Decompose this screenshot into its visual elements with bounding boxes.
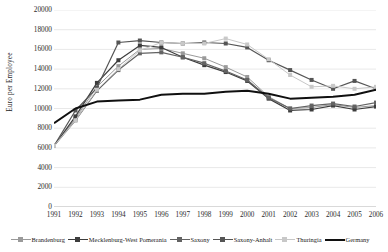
- data-point-marker: [374, 85, 376, 89]
- data-point-marker: [95, 88, 99, 92]
- legend-swatch-icon: [325, 236, 345, 243]
- y-tick-label: 4000: [37, 164, 52, 172]
- data-point-marker: [138, 43, 142, 47]
- data-point-marker: [138, 39, 142, 43]
- series-line: [54, 52, 376, 146]
- data-point-marker: [353, 105, 357, 109]
- data-point-marker: [288, 68, 292, 72]
- data-point-marker: [202, 41, 206, 45]
- legend-item[interactable]: Brandenburg: [11, 236, 68, 243]
- cropped-title: [0, 0, 383, 6]
- data-point-marker: [116, 41, 120, 45]
- y-tick-label: 20000: [34, 6, 52, 14]
- data-point-marker: [374, 101, 376, 105]
- legend-item-label: Thuringia: [296, 236, 324, 243]
- data-point-marker: [54, 144, 56, 148]
- data-point-marker: [159, 45, 163, 49]
- x-tick-label: 2006: [363, 210, 388, 220]
- data-point-marker: [310, 85, 314, 89]
- data-point-marker: [116, 58, 120, 62]
- data-point-marker: [310, 78, 314, 82]
- data-point-marker: [159, 50, 163, 54]
- y-tick-label: 18000: [34, 26, 52, 34]
- x-axis-ticks: 1991199219931994199519961997199819992000…: [54, 210, 376, 224]
- data-point-marker: [181, 51, 185, 55]
- legend-item[interactable]: Saxony-Anhalt: [213, 236, 276, 243]
- data-point-marker: [202, 56, 206, 60]
- y-axis-label: Euro per Employee: [6, 27, 14, 137]
- data-point-marker: [181, 55, 185, 59]
- data-point-marker: [374, 105, 376, 109]
- legend-item[interactable]: Mecklenburg-West Pomerania: [68, 236, 170, 243]
- data-point-marker: [224, 41, 228, 45]
- data-point-marker: [288, 73, 292, 77]
- chart-legend: BrandenburgMecklenburg-West PomeraniaSax…: [0, 232, 383, 246]
- data-point-marker: [224, 69, 228, 73]
- data-point-marker: [331, 102, 335, 106]
- legend-swatch-icon: [213, 236, 233, 243]
- legend-item[interactable]: Saxony: [170, 236, 213, 243]
- data-point-marker: [267, 96, 271, 100]
- data-point-marker: [138, 48, 142, 52]
- legend-swatch-icon: [68, 236, 88, 243]
- y-tick-label: 16000: [34, 45, 52, 53]
- y-tick-label: 6000: [37, 144, 52, 152]
- data-point-marker: [267, 57, 271, 61]
- data-point-marker: [245, 42, 249, 46]
- series-line: [54, 45, 376, 145]
- data-point-marker: [224, 37, 228, 41]
- data-point-marker: [310, 104, 314, 108]
- legend-item-label: Germany: [346, 236, 373, 243]
- data-point-marker: [73, 118, 77, 122]
- data-point-marker: [288, 107, 292, 111]
- data-point-marker: [116, 67, 120, 71]
- y-tick-label: 10000: [34, 105, 52, 113]
- series-mecklenburg-west-pomerania: [54, 43, 376, 147]
- data-point-marker: [245, 78, 249, 82]
- y-tick-label: 8000: [37, 124, 52, 132]
- legend-item-label: Saxony: [191, 236, 213, 243]
- legend-swatch-icon: [275, 236, 295, 243]
- data-point-marker: [353, 79, 357, 83]
- legend-item[interactable]: Thuringia: [275, 236, 324, 243]
- series-saxony: [54, 50, 376, 148]
- y-tick-label: 12000: [34, 85, 52, 93]
- legend-item-label: Saxony-Anhalt: [234, 236, 276, 243]
- legend-item-label: Brandenburg: [32, 236, 68, 243]
- data-point-marker: [331, 84, 335, 88]
- legend-item[interactable]: Germany: [325, 236, 373, 243]
- data-point-marker: [310, 107, 314, 111]
- legend-swatch-icon: [11, 236, 31, 243]
- data-point-marker: [224, 65, 228, 69]
- legend-swatch-icon: [170, 236, 190, 243]
- chart-svg: [54, 10, 376, 207]
- legend-item-label: Mecklenburg-West Pomerania: [89, 236, 170, 243]
- y-axis-ticks: 0200040006000800010000120001400016000180…: [14, 0, 52, 215]
- data-point-marker: [181, 41, 185, 45]
- y-tick-label: 2000: [37, 183, 52, 191]
- data-point-marker: [202, 61, 206, 65]
- data-point-marker: [159, 41, 163, 45]
- data-point-marker: [353, 87, 357, 91]
- y-tick-label: 14000: [34, 65, 52, 73]
- plot-area: [54, 10, 376, 207]
